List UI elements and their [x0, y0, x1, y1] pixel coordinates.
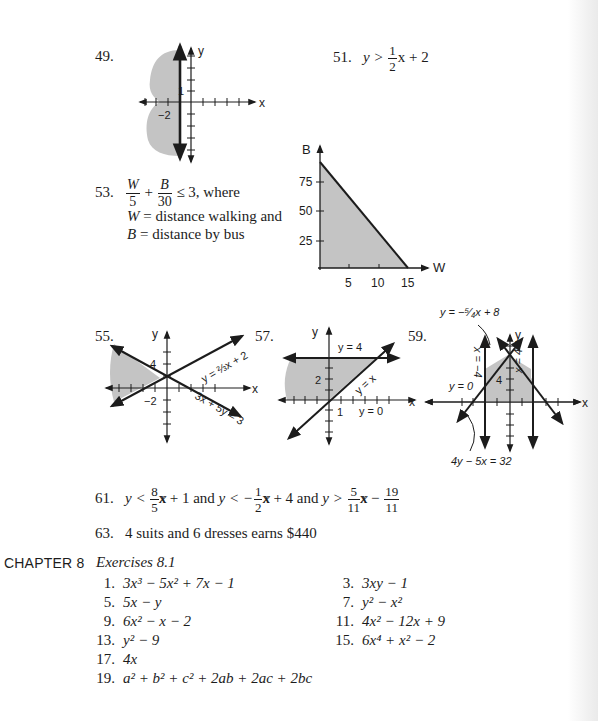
- label-top-line: y = −⁵⁄₄x + 8: [439, 306, 500, 318]
- problem-51: 51. y > 12x + 2: [333, 44, 429, 73]
- problem-61: 61. y < 85xx + 1 and y < −12xx + 4 and y…: [95, 485, 400, 514]
- svg-text:2: 2: [315, 374, 321, 386]
- answer-19: 19.a² + b² + c² + 2ab + 2ac + 2bc: [85, 670, 312, 687]
- answer-11: 11.4x² − 12x + 9: [324, 613, 445, 630]
- line-label-y4: y = 4: [338, 341, 362, 353]
- x-axis-label: x: [259, 96, 265, 110]
- line-label-y0: y = 0: [359, 405, 383, 417]
- answer-9: 9.6x² − x − 2: [85, 613, 191, 630]
- problem-49-graph: y x 1 −2: [130, 40, 270, 170]
- label-y0: y = 0: [448, 380, 474, 392]
- svg-text:10: 10: [371, 276, 385, 290]
- answer-7: 7.y² − x²: [324, 594, 402, 611]
- svg-text:5: 5: [345, 276, 352, 290]
- problem-53: 53. W5 + B30 ≤ 3, where W = distance wal…: [95, 178, 282, 245]
- answer-15: 15.6x⁴ + x² − 2: [324, 632, 435, 649]
- x-axis-label: W: [433, 260, 446, 275]
- svg-text:y: y: [312, 325, 318, 339]
- svg-text:75: 75: [299, 175, 313, 189]
- label-bottom-line: 4y − 5x = 32: [451, 455, 512, 467]
- answer-17: 17.4x: [85, 651, 137, 668]
- problem-49-number: 49.: [95, 48, 114, 65]
- svg-text:4: 4: [496, 374, 502, 386]
- answer-5: 5.5x − y: [85, 594, 161, 611]
- svg-text:4: 4: [150, 358, 156, 370]
- section-title: Exercises 8.1: [96, 554, 175, 571]
- answer-1: 1.3x³ − 5x² + 7x − 1: [85, 575, 235, 592]
- problem-57-number: 57.: [255, 328, 274, 345]
- tick-label-1: 1: [178, 85, 184, 97]
- problem-59-graph: y = −⁵⁄₄x + 8 y x 4 x = −4 x = 4 y = 0 4…: [418, 303, 598, 473]
- tick-label-neg2: −2: [158, 109, 171, 121]
- svg-text:1: 1: [337, 406, 343, 418]
- y-axis-label: y: [198, 44, 204, 58]
- svg-text:50: 50: [299, 204, 313, 218]
- svg-text:x: x: [252, 382, 258, 396]
- svg-text:y: y: [152, 327, 158, 341]
- answer-13: 13.y² − 9: [85, 632, 159, 649]
- fraction: 12: [388, 44, 397, 73]
- y-axis-label: B: [302, 142, 311, 157]
- answer-3: 3.3xy − 1: [324, 575, 408, 592]
- problem-57-graph: y x 2 1 y = 4 y = x y = 0: [275, 322, 420, 447]
- svg-text:x: x: [409, 395, 415, 409]
- label-x-neg4: x = −4: [472, 346, 484, 378]
- svg-text:y: y: [515, 328, 521, 342]
- svg-text:x: x: [582, 396, 588, 410]
- chapter-label: CHAPTER 8: [4, 555, 84, 571]
- line-label-2: 3x + 5y = 3: [193, 389, 246, 427]
- problem-63: 63. 4 suits and 6 dresses earns $440: [95, 525, 317, 542]
- problem-55-graph: y x 4 −2 y = ⅔x + 2 3x + 5y = 3: [100, 322, 260, 447]
- svg-text:15: 15: [401, 276, 415, 290]
- problem-53-graph: B W 75 50 25 5 10 15: [296, 138, 446, 298]
- label-x-4: x = 4: [512, 349, 524, 374]
- svg-text:−2: −2: [144, 395, 157, 407]
- svg-text:25: 25: [299, 234, 313, 248]
